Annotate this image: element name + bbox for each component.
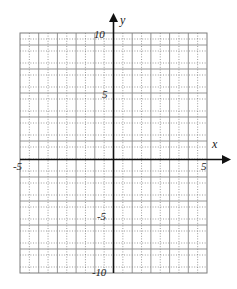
x-tick-label-5: 5	[201, 161, 206, 172]
coordinate-plane-svg	[0, 0, 237, 289]
y-tick-label-negative-10: -10	[92, 267, 106, 278]
y-tick-label-negative-5: -5	[97, 211, 106, 222]
x-axis-label: x	[212, 138, 217, 150]
y-tick-label-5: 5	[102, 89, 107, 100]
x-tick-label-negative-5: -5	[13, 161, 22, 172]
y-tick-label-10: 10	[94, 29, 105, 40]
y-axis-label: y	[120, 14, 125, 26]
coordinate-grid-figure: y x 10 5 -5 -10 -5 5	[0, 0, 237, 289]
figure-background	[0, 0, 237, 289]
